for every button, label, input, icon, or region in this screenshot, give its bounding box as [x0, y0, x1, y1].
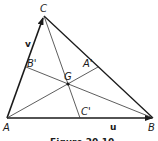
- midpoint-label-b-prime: B': [27, 58, 37, 69]
- triangle-centroid-diagram: C A B B' A' C' G u v Figure 20.10: [0, 0, 158, 141]
- vector-label-v: v: [25, 39, 31, 49]
- vector-label-u: u: [110, 122, 116, 132]
- centroid-label: G: [64, 71, 72, 82]
- side-bc: [44, 16, 153, 118]
- midpoint-label-c-prime: C': [81, 106, 91, 117]
- vertex-label-b: B: [148, 122, 155, 133]
- midpoint-label-a-prime: A': [82, 58, 93, 69]
- vertex-label-a: A: [2, 122, 10, 133]
- centroid-point: [66, 82, 69, 85]
- figure-caption: Figure 20.10: [50, 137, 114, 141]
- vector-v-arrow: [7, 18, 43, 118]
- vertex-label-c: C: [40, 3, 47, 14]
- median-c: [44, 16, 80, 118]
